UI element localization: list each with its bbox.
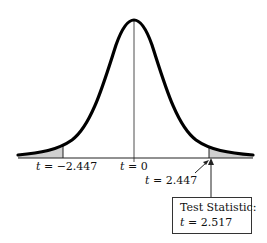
test-statistic-value: t = 2.517	[180, 215, 251, 230]
test-statistic-title: Test Statistic:	[180, 200, 251, 215]
center-label: t = 0	[120, 161, 148, 173]
arrowhead-icon	[208, 158, 214, 165]
t-distribution-curve	[18, 20, 253, 155]
left-critical-label: t = −2.447	[36, 161, 97, 173]
right-critical-label: t = 2.447	[145, 175, 197, 187]
test-statistic-box: Test Statistic: t = 2.517	[172, 197, 252, 234]
